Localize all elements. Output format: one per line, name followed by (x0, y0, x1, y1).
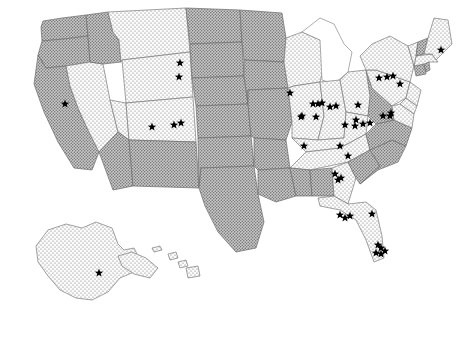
state-ne: Nebraska (192, 76, 248, 106)
state-wy: Wyoming (122, 52, 193, 103)
state-co: Colorado (126, 97, 196, 142)
state-mo: Missouri (248, 88, 292, 140)
state-nm: New Mexico (129, 140, 199, 188)
state-il: Illinois (288, 82, 324, 140)
state-mn: Minnesota (240, 10, 286, 62)
state-hi-part3: Hawaii (178, 260, 188, 268)
state-hi-part1: Hawaii (152, 246, 162, 252)
state-tx: Texas (199, 166, 264, 252)
state-me: Maine (424, 18, 452, 60)
state-hi-part2: Hawaii (168, 252, 178, 260)
states-layer: WashingtonOregonCaliforniaNevadaIdahoMon… (34, 8, 452, 300)
state-nd: North Dakota (186, 8, 242, 44)
us-map-figure: WashingtonOregonCaliforniaNevadaIdahoMon… (0, 0, 468, 341)
state-ar: Arkansas (254, 138, 290, 170)
state-la: Louisiana (258, 168, 296, 202)
state-al: Alabama (310, 168, 334, 196)
state-hi-part4: Hawaii (186, 266, 200, 278)
state-sd: South Dakota (190, 42, 244, 78)
state-ks: Kansas (196, 104, 251, 138)
us-map-canvas: WashingtonOregonCaliforniaNevadaIdahoMon… (0, 0, 468, 341)
